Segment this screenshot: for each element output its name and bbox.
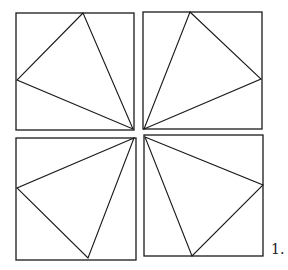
triangle-bottom-left xyxy=(17,138,134,258)
triangle-bottom-right xyxy=(145,137,263,256)
panel-bottom-right xyxy=(144,135,263,256)
panel-top-left xyxy=(16,13,134,130)
square-top-left xyxy=(16,13,134,130)
square-bottom-right xyxy=(144,135,263,256)
panel-bottom-left xyxy=(16,138,136,260)
triangle-top-right xyxy=(144,12,261,129)
four-squares-triangles-figure xyxy=(0,0,288,270)
figure-number-label: 1. xyxy=(271,242,284,256)
triangle-top-left xyxy=(17,13,133,129)
square-top-right xyxy=(143,12,262,129)
panel-top-right xyxy=(143,12,262,129)
square-bottom-left xyxy=(16,138,136,260)
